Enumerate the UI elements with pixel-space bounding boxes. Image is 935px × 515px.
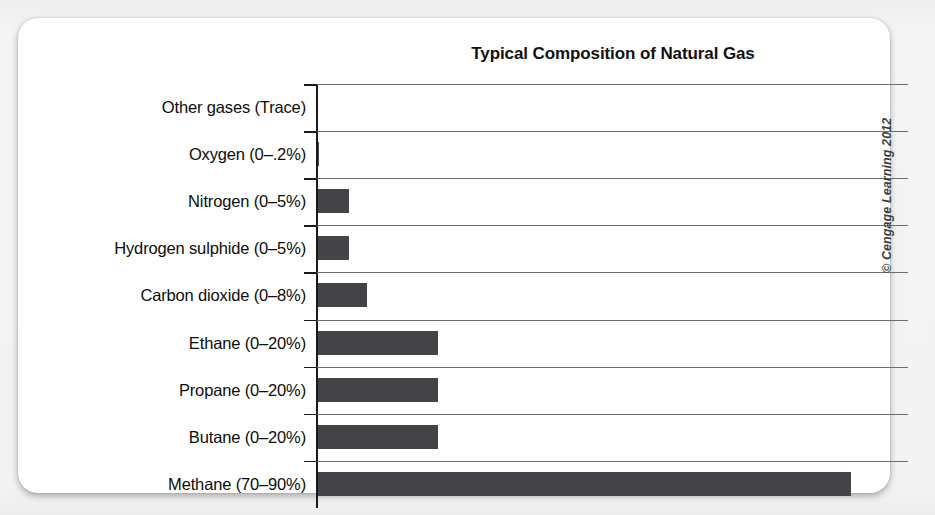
gridline (317, 461, 908, 462)
category-label: Nitrogen (0–5%) (18, 178, 306, 225)
chart-row: Butane (0–20%) (18, 414, 935, 461)
category-label: Carbon dioxide (0–8%) (18, 272, 306, 319)
bar (318, 331, 438, 355)
chart-row: Other gases (Trace) (18, 84, 935, 131)
category-label: Oxygen (0–.2%) (18, 131, 306, 178)
category-label: Hydrogen sulphide (0–5%) (18, 225, 306, 272)
chart-row: Ethane (0–20%) (18, 320, 935, 367)
bar (318, 425, 438, 449)
gridline (317, 414, 908, 415)
chart-row: Methane (70–90%) (18, 461, 935, 508)
gridline (317, 320, 908, 321)
copyright-credit: © Cengage Learning 2012 (880, 118, 894, 273)
bar (318, 142, 319, 166)
chart-title: Typical Composition of Natural Gas (318, 44, 908, 64)
category-label: Propane (0–20%) (18, 367, 306, 414)
gridline (317, 84, 908, 85)
bar (318, 189, 349, 213)
chart-row-baseline (18, 508, 935, 515)
category-label: Butane (0–20%) (18, 414, 306, 461)
chart-row: Oxygen (0–.2%) (18, 131, 935, 178)
gridline (317, 367, 908, 368)
category-label: Methane (70–90%) (18, 461, 306, 508)
category-label: Ethane (0–20%) (18, 320, 306, 367)
gridline (317, 225, 908, 226)
chart-row: Carbon dioxide (0–8%) (18, 272, 935, 319)
chart-row: Hydrogen sulphide (0–5%) (18, 225, 935, 272)
bar (318, 472, 851, 496)
bar-chart-plot-area: Other gases (Trace)Oxygen (0–.2%)Nitroge… (18, 84, 935, 508)
gridline (317, 272, 908, 273)
chart-row: Propane (0–20%) (18, 367, 935, 414)
bar (318, 236, 349, 260)
chart-row: Nitrogen (0–5%) (18, 178, 935, 225)
category-label: Other gases (Trace) (18, 84, 306, 131)
gridline (317, 178, 908, 179)
bar (318, 378, 438, 402)
bar (318, 283, 367, 307)
figure-card: Typical Composition of Natural Gas Other… (18, 18, 890, 493)
gridline (317, 131, 908, 132)
